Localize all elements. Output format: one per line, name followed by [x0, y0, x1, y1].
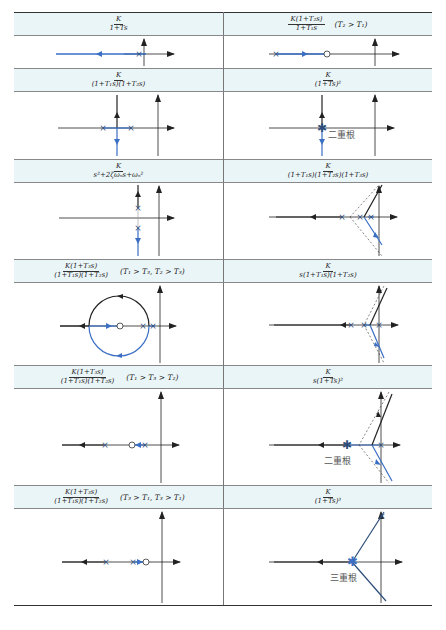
header-row: K(1+T₃s)(1+T₁s)(1+T₂s)(T₁ > T₃ > T₂) Ks(… — [14, 366, 432, 389]
root-locus-plot: ✱ 二重根 — [224, 92, 433, 159]
root-locus-plot-cell: ✱ × 二重根 — [224, 389, 433, 486]
pole-marker: × — [102, 557, 110, 567]
transfer-function-cell: K(1+Ts)³ — [224, 486, 433, 509]
double-pole-marker: ✱ — [342, 438, 352, 452]
transfer-function: K(1+T₃s)(1+T₁s)(1+T₂s) — [52, 263, 110, 279]
transfer-function-cell: Ks(1+Ts)² — [224, 366, 433, 389]
transfer-function-cell: K(1+Ts)² — [224, 69, 433, 92]
zero-marker — [324, 51, 330, 57]
root-locus-plot-cell: × × — [14, 509, 224, 606]
transfer-function-cell: K(1+T₁s)(1+T₂s) — [14, 69, 224, 92]
pole-marker: × — [367, 212, 375, 222]
pole-marker: × — [135, 49, 143, 59]
condition: (T₁ > T₃, T₂ > T₃) — [120, 267, 185, 276]
plot-row: × × ✱ × 三重根 — [14, 509, 432, 606]
zero-marker — [143, 559, 149, 565]
root-locus-plot-cell: × × — [14, 389, 224, 486]
root-locus-plot-cell: × × — [14, 92, 224, 160]
root-locus-plot-cell: × × × — [224, 183, 433, 260]
plot-row: × × ✱ 二重根 — [14, 92, 432, 160]
header-row: K(1+T₃s)(1+T₁s)(1+T₂s)(T₁ > T₃, T₂ > T₃)… — [14, 260, 432, 283]
root-locus-plot: × — [224, 36, 433, 68]
root-locus-plot: × × — [14, 389, 223, 485]
root-locus-plot: × × — [14, 283, 223, 365]
transfer-function-cell: K(1+T₂s)1+T₁s(T₂ > T₁) — [224, 13, 433, 36]
plot-row: × × ✱ × 二重根 — [14, 389, 432, 486]
root-locus-table: K1+Ts K(1+T₂s)1+T₁s(T₂ > T₁) × × — [14, 12, 432, 606]
root-locus-plot: × × × — [224, 183, 433, 259]
pole-marker: × — [101, 440, 109, 450]
header-row: K(1+T₃s)(1+T₁s)(1+T₂s)(T₃ > T₁, T₃ > T₁)… — [14, 486, 432, 509]
condition: (T₂ > T₁) — [335, 20, 368, 29]
root-locus-plot-cell: × × — [14, 283, 224, 366]
transfer-function-cell: K(1+T₃s)(1+T₁s)(1+T₂s)(T₁ > T₃ > T₂) — [14, 366, 224, 389]
transfer-function-cell: K(1+T₃s)(1+T₁s)(1+T₂s)(T₁ > T₃, T₂ > T₃) — [14, 260, 224, 283]
transfer-function: Ks(1+T₁s)(1+T₂s) — [297, 263, 358, 279]
root-locus-plot: × × × — [224, 283, 433, 365]
pole-marker: × — [134, 223, 142, 233]
zero-marker — [129, 442, 135, 448]
pole-marker: × — [347, 320, 355, 330]
pole-marker: × — [360, 320, 368, 330]
root-locus-plot-cell: × — [224, 36, 433, 69]
root-locus-plot: × × — [14, 509, 223, 605]
transfer-function: K(1+T₂s)1+T₁s — [288, 16, 324, 32]
transfer-function: Ks²+2ζωₙs+ωₙ² — [92, 163, 146, 179]
transfer-function: K1+Ts — [107, 16, 129, 32]
root-locus-plot: ✱ × 三重根 — [224, 509, 433, 605]
condition: (T₃ > T₁, T₃ > T₁) — [120, 493, 185, 502]
triple-pole-marker: ✱ — [347, 554, 358, 569]
root-locus-plot-cell: × — [14, 36, 224, 69]
root-locus-plot-cell: × × — [14, 183, 224, 260]
triple-root-label: 三重根 — [330, 572, 357, 583]
pole-marker: × — [375, 320, 383, 330]
pole-marker: × — [127, 123, 135, 133]
double-root-label: 二重根 — [328, 129, 355, 140]
pole-marker: × — [139, 321, 147, 331]
transfer-function: Ks(1+Ts)² — [311, 369, 345, 385]
header-row: K1+Ts K(1+T₂s)1+T₁s(T₂ > T₁) — [14, 13, 432, 36]
transfer-function-cell: Ks(1+T₁s)(1+T₂s) — [224, 260, 433, 283]
condition: (T₁ > T₃ > T₂) — [126, 373, 178, 382]
pole-marker: × — [377, 440, 385, 450]
transfer-function: K(1+T₃s)(1+T₁s)(1+T₂s) — [52, 489, 110, 505]
double-root-label: 二重根 — [324, 455, 351, 466]
transfer-function: K(1+Ts)² — [313, 72, 343, 88]
root-locus-plot: × × — [14, 92, 223, 159]
root-locus-plot: ✱ × 二重根 — [224, 389, 433, 485]
header-row: Ks²+2ζωₙs+ωₙ² K(1+T₁s)(1+T₂s)(1+T₃s) — [14, 160, 432, 183]
pole-marker: × — [149, 321, 157, 331]
plot-row: × × × × × — [14, 283, 432, 366]
root-locus-plot-cell: ✱ 二重根 — [224, 92, 433, 160]
transfer-function-cell: K(1+T₃s)(1+T₁s)(1+T₂s)(T₃ > T₁, T₃ > T₁) — [14, 486, 224, 509]
root-locus-plot: × × — [14, 183, 223, 259]
header-row: K(1+T₁s)(1+T₂s) K(1+Ts)² — [14, 69, 432, 92]
plot-row: × × — [14, 36, 432, 69]
pole-marker: × — [272, 49, 280, 59]
transfer-function: K(1+Ts)³ — [313, 489, 343, 505]
plot-row: × × × × × — [14, 183, 432, 260]
transfer-function-cell: K1+Ts — [14, 13, 224, 36]
root-locus-plot-cell: × × × — [224, 283, 433, 366]
pole-marker: × — [134, 203, 142, 213]
transfer-function: K(1+T₃s)(1+T₁s)(1+T₂s) — [59, 369, 117, 385]
transfer-function: K(1+T₁s)(1+T₂s) — [90, 72, 148, 88]
transfer-function: K(1+T₁s)(1+T₂s)(1+T₃s) — [286, 163, 371, 179]
pole-marker: × — [99, 123, 107, 133]
pole-marker: × — [356, 212, 364, 222]
root-locus-plot: × — [14, 36, 223, 68]
endpoint-marker: × — [378, 511, 386, 521]
pole-marker: × — [338, 212, 346, 222]
transfer-function-cell: K(1+T₁s)(1+T₂s)(1+T₃s) — [224, 160, 433, 183]
root-locus-plot-cell: ✱ × 三重根 — [224, 509, 433, 606]
pole-marker: × — [141, 440, 149, 450]
zero-marker — [117, 323, 123, 329]
double-pole-marker: ✱ — [317, 121, 327, 135]
transfer-function-cell: Ks²+2ζωₙs+ωₙ² — [14, 160, 224, 183]
